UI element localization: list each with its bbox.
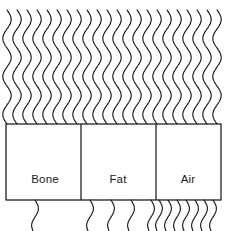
incident-wave-1 xyxy=(13,10,21,124)
incident-wave-16 xyxy=(163,10,171,124)
incident-wave-5 xyxy=(53,10,61,124)
diagram-svg xyxy=(0,0,228,231)
transmitted-wave-air-0 xyxy=(156,200,163,231)
incident-wave-10 xyxy=(103,10,111,124)
transmitted-wave-air-1 xyxy=(165,200,172,231)
region-label-fat: Fat xyxy=(109,173,126,185)
incident-wave-11 xyxy=(113,10,121,124)
incident-wave-3 xyxy=(33,10,41,124)
transmitted-wave-air-3 xyxy=(183,200,190,231)
transmitted-wave-air-2 xyxy=(174,200,181,231)
incident-wave-2 xyxy=(23,10,31,124)
incident-wave-0 xyxy=(3,10,11,124)
material-barrier-group xyxy=(6,124,221,200)
incident-wave-14 xyxy=(143,10,151,124)
transmitted-wave-bone-0 xyxy=(32,200,39,231)
transmitted-wave-air-6 xyxy=(210,200,217,231)
incident-wave-8 xyxy=(83,10,91,124)
transmitted-wave-air-4 xyxy=(192,200,199,231)
diagram-canvas: Bone Fat Air xyxy=(0,0,228,231)
region-label-air: Air xyxy=(181,173,196,185)
incident-wave-7 xyxy=(73,10,81,124)
region-label-bone: Bone xyxy=(31,173,59,185)
transmitted-wave-fat-3 xyxy=(148,200,155,231)
incident-wave-21 xyxy=(213,10,221,124)
incident-wave-18 xyxy=(183,10,191,124)
incident-wave-12 xyxy=(123,10,131,124)
incident-wave-6 xyxy=(63,10,71,124)
incident-wave-19 xyxy=(193,10,201,124)
transmitted-wave-fat-2 xyxy=(128,200,135,231)
transmitted-wave-fat-1 xyxy=(108,200,115,231)
incident-wave-9 xyxy=(93,10,101,124)
incident-wave-20 xyxy=(203,10,211,124)
transmitted-wave-air-5 xyxy=(201,200,208,231)
incident-wave-4 xyxy=(43,10,51,124)
material-barrier-rect xyxy=(6,124,221,200)
incident-wave-15 xyxy=(153,10,161,124)
transmitted-wave-fat-0 xyxy=(87,200,94,231)
incident-wave-17 xyxy=(173,10,181,124)
incident-wave-group xyxy=(3,10,221,124)
transmitted-wave-group xyxy=(32,200,217,231)
incident-wave-13 xyxy=(133,10,141,124)
